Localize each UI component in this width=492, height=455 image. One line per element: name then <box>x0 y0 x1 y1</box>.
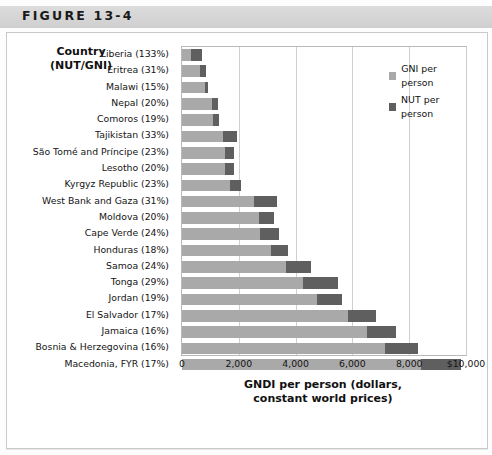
category-label: Moldova (20%) <box>7 209 175 225</box>
bar-row <box>182 128 466 144</box>
bar-segment-gni <box>182 147 225 159</box>
bar-row <box>182 243 466 259</box>
bar-row <box>182 226 466 242</box>
category-label: Macedonia, FYR (17%) <box>7 356 175 372</box>
bar-segment-gni <box>182 261 286 273</box>
category-label: Bosnia & Herzegovina (16%) <box>7 339 175 355</box>
category-label: El Salvador (17%) <box>7 307 175 323</box>
category-label: Tonga (29%) <box>7 274 175 290</box>
category-label: Eritrea (31%) <box>7 62 175 78</box>
plot-area: GNI per person NUT per person <box>181 46 467 356</box>
figure-label: FIGURE 13-4 <box>22 8 134 23</box>
category-label: Cape Verde (24%) <box>7 225 175 241</box>
bar-row <box>182 194 466 210</box>
bar-segment-gni <box>182 49 191 61</box>
bar-segment-nut <box>385 343 418 355</box>
x-axis-title-line2: constant world prices) <box>173 392 473 406</box>
chart-card: Country (NUT/GNI) Liberia (133%)Eritrea … <box>6 32 488 449</box>
bar-segment-nut <box>317 294 343 306</box>
x-tick-label: $10,000 <box>447 358 485 369</box>
figure-page: FIGURE 13-4 Country (NUT/GNI) Liberia (1… <box>0 0 492 455</box>
bar-segment-gni <box>182 65 200 77</box>
category-label: Malawi (15%) <box>7 79 175 95</box>
x-axis-ticks: 02,0004,0006,0008,000$10,000 <box>181 358 467 374</box>
category-label: São Tomé and Príncipe (23%) <box>7 144 175 160</box>
bar-segment-gni <box>182 294 317 306</box>
category-label: Comoros (19%) <box>7 111 175 127</box>
bar-row <box>182 291 466 307</box>
bar-segment-nut <box>200 65 206 77</box>
bar-segment-nut <box>367 326 397 338</box>
bar-segment-gni <box>182 228 260 240</box>
bar-segment-gni <box>182 98 212 110</box>
bar-row <box>182 324 466 340</box>
category-label: Liberia (133%) <box>7 46 175 62</box>
bar-segment-nut <box>213 114 219 126</box>
bar-row <box>182 161 466 177</box>
bar-segment-nut <box>303 277 338 289</box>
bar-segment-nut <box>259 212 274 224</box>
category-label: Lesotho (20%) <box>7 160 175 176</box>
bar-segment-gni <box>182 212 259 224</box>
bar-segment-nut <box>191 49 202 61</box>
category-label: Honduras (18%) <box>7 242 175 258</box>
bar-segment-nut <box>348 310 376 322</box>
category-label: Jordan (19%) <box>7 290 175 306</box>
legend-swatch-gni <box>389 72 396 80</box>
bar-row <box>182 275 466 291</box>
bar-segment-gni <box>182 196 254 208</box>
legend-label-nut: NUT per person <box>401 93 466 121</box>
category-label: Samoa (24%) <box>7 258 175 274</box>
legend-label-gni: GNI per person <box>401 62 466 90</box>
bar-row <box>182 145 466 161</box>
bar-segment-nut <box>205 82 208 94</box>
bar-segment-gni <box>182 163 225 175</box>
x-tick-label: 0 <box>179 358 185 369</box>
bar-segment-nut <box>230 180 241 192</box>
gridline <box>466 47 467 355</box>
bar-segment-gni <box>182 131 223 143</box>
bar-row <box>182 308 466 324</box>
bar-segment-gni <box>182 310 348 322</box>
x-axis-title-line1: GNDI per person (dollars, <box>173 378 473 392</box>
bar-segment-gni <box>182 245 271 257</box>
x-tick-label: 6,000 <box>339 358 366 369</box>
bar-segment-nut <box>260 228 279 240</box>
bar-row <box>182 177 466 193</box>
bar-segment-nut <box>212 98 218 110</box>
bar-segment-nut <box>225 147 235 159</box>
category-label: Tajikistan (33%) <box>7 127 175 143</box>
bar-row <box>182 47 466 63</box>
x-tick-label: 4,000 <box>282 358 309 369</box>
x-tick-label: 8,000 <box>396 358 423 369</box>
legend-item-gni: GNI per person <box>389 62 466 90</box>
bar-segment-gni <box>182 326 367 338</box>
legend-swatch-nut <box>389 103 396 111</box>
bar-row <box>182 259 466 275</box>
bar-segment-nut <box>254 196 276 208</box>
category-axis-labels: Liberia (133%)Eritrea (31%)Malawi (15%)N… <box>7 46 175 372</box>
bar-segment-gni <box>182 277 303 289</box>
bar-segment-gni <box>182 343 385 355</box>
category-label: West Bank and Gaza (31%) <box>7 193 175 209</box>
legend-item-nut: NUT per person <box>389 93 466 121</box>
bar-row <box>182 340 466 356</box>
bar-segment-gni <box>182 82 205 94</box>
x-tick-label: 2,000 <box>225 358 252 369</box>
bar-segment-nut <box>225 163 235 175</box>
bar-row <box>182 210 466 226</box>
category-label: Jamaica (16%) <box>7 323 175 339</box>
bar-segment-gni <box>182 114 213 126</box>
plot-area-wrapper: Liberia (133%)Eritrea (31%)Malawi (15%)N… <box>7 33 487 448</box>
bar-segment-gni <box>182 180 230 192</box>
chart-legend: GNI per person NUT per person <box>389 62 466 124</box>
category-label: Nepal (20%) <box>7 95 175 111</box>
category-label: Kyrgyz Republic (23%) <box>7 176 175 192</box>
bar-segment-nut <box>271 245 287 257</box>
x-axis-title: GNDI per person (dollars, constant world… <box>173 378 473 406</box>
bar-segment-nut <box>286 261 311 273</box>
bar-segment-nut <box>223 131 237 143</box>
